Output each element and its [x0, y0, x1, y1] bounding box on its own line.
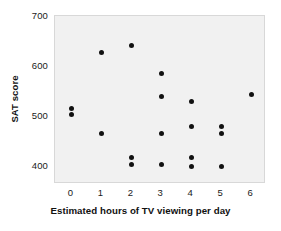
data-point: [189, 99, 194, 104]
y-tick-label-600: 600: [32, 60, 48, 71]
x-axis-title: Estimated hours of TV viewing per day: [0, 205, 281, 216]
x-axis-tick-labels: 0123456: [54, 187, 265, 201]
data-point: [159, 162, 164, 167]
data-point: [159, 71, 164, 76]
x-tick-label-5: 5: [217, 187, 222, 198]
x-tick-label-4: 4: [188, 187, 193, 198]
x-tick-label-3: 3: [158, 187, 163, 198]
data-point: [69, 106, 74, 111]
data-point: [159, 131, 164, 136]
x-tick-label-2: 2: [128, 187, 133, 198]
x-tick-label-0: 0: [68, 187, 73, 198]
data-point: [159, 94, 164, 99]
data-point: [99, 131, 104, 136]
data-point: [189, 164, 194, 169]
data-point: [189, 124, 194, 129]
data-point: [219, 124, 224, 129]
data-point: [219, 164, 224, 169]
y-tick-label-500: 500: [32, 110, 48, 121]
data-point: [249, 92, 254, 97]
data-point: [129, 155, 134, 160]
data-point: [189, 155, 194, 160]
scatter-plot-figure: SAT score 400500600700 0123456 Estimated…: [0, 0, 281, 231]
plot-area: [54, 15, 265, 183]
y-tick-label-400: 400: [32, 160, 48, 171]
data-point: [99, 50, 104, 55]
data-point: [129, 43, 134, 48]
data-point: [129, 162, 134, 167]
data-point: [219, 131, 224, 136]
x-tick-label-6: 6: [247, 187, 252, 198]
y-axis-tick-labels: 400500600700: [0, 0, 52, 231]
x-tick-label-1: 1: [98, 187, 103, 198]
y-tick-label-700: 700: [32, 10, 48, 21]
data-point: [69, 112, 74, 117]
